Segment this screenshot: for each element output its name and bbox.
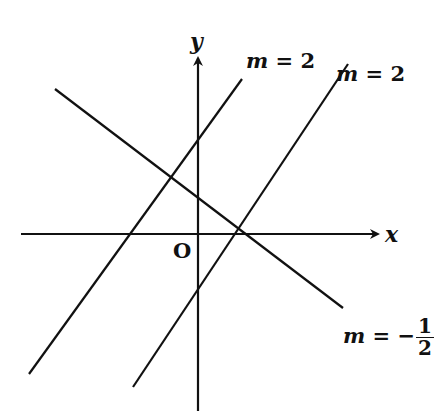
- slope-label-line-3: m = −12: [343, 316, 434, 359]
- fraction-numerator: 1: [416, 316, 434, 338]
- x-axis-label: x: [385, 223, 398, 245]
- fraction: 12: [416, 316, 434, 359]
- slope-symbol: m: [336, 61, 358, 86]
- slope-symbol: m: [246, 48, 268, 73]
- slope-label-line-1: m = 2: [246, 50, 315, 71]
- slope-value: = −: [365, 323, 415, 348]
- y-axis-label: y: [190, 30, 203, 52]
- line-slope-2-left: [29, 79, 242, 374]
- slope-value: = 2: [268, 48, 315, 73]
- slope-label-line-2: m = 2: [336, 63, 405, 84]
- slope-symbol: m: [343, 323, 365, 348]
- origin-label: O: [173, 240, 191, 261]
- line-slope-2-right: [133, 64, 348, 387]
- slope-value: = 2: [358, 61, 405, 86]
- fraction-denominator: 2: [416, 338, 434, 359]
